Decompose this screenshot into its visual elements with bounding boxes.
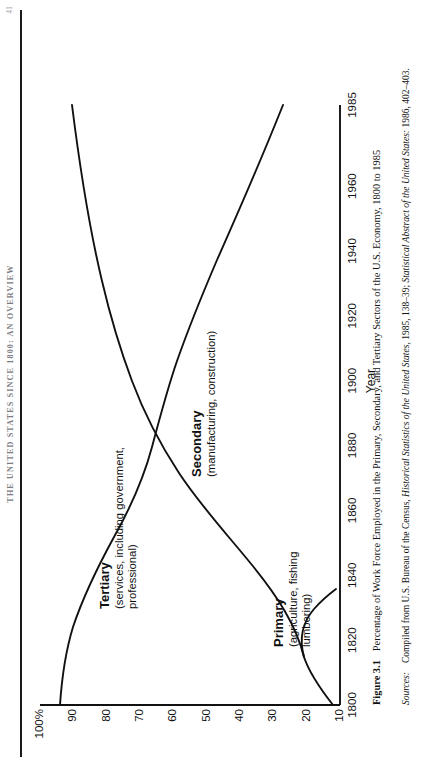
y-tick-10: 10 (333, 709, 345, 745)
y-tick-40: 40 (233, 709, 245, 745)
annotation-secondary-sub: (manufacturing, construction) (205, 331, 218, 477)
x-tick-1960: 1960 (346, 173, 358, 199)
annotation-primary-name: Primary (272, 552, 287, 647)
annotation-secondary: Secondary (manufacturing, construction) (190, 331, 218, 477)
y-tick-50: 50 (200, 709, 212, 745)
annotation-secondary-name: Secondary (190, 331, 205, 477)
y-tick-30: 30 (266, 709, 278, 745)
x-tick-1860: 1860 (346, 498, 358, 524)
figure-number: Figure 3.1 (370, 660, 383, 705)
y-tick-80: 80 (100, 709, 112, 745)
figure-caption-text: Percentage of Work Force Employed in the… (370, 45, 383, 651)
annotation-tertiary-name: Tertiary (98, 447, 113, 609)
x-tick-1985: 1985 (346, 92, 358, 118)
sources-label: Sources: (400, 672, 412, 705)
sources-italic-2: Statistical Abstract of the United State… (401, 130, 411, 283)
y-tick-90: 90 (66, 709, 78, 745)
chart-plot-area: 100% 90 80 70 60 50 40 30 20 10 1800 182… (40, 105, 340, 705)
page-folio: 41 (5, 6, 14, 14)
figure-caption: Figure 3.1 Percentage of Work Force Empl… (370, 45, 383, 705)
x-tick-1940: 1940 (346, 238, 358, 264)
y-tick-70: 70 (133, 709, 145, 745)
book-page: THE UNITED STATES SINCE 1800: AN OVERVIE… (0, 0, 442, 767)
sources-part-2: 1985, 138–39; (401, 283, 411, 343)
rotated-page-wrapper: THE UNITED STATES SINCE 1800: AN OVERVIE… (0, 0, 442, 767)
sources-text: Compiled from U.S. Bureau of the Census,… (400, 45, 412, 663)
annotation-tertiary: Tertiary (services, including government… (98, 447, 140, 609)
x-tick-1880: 1880 (346, 433, 358, 459)
curve-secondary-tertiary-boundary (60, 105, 283, 705)
x-tick-1920: 1920 (346, 303, 358, 329)
sources-italic-1: Historical Statistics of the United Stat… (401, 342, 411, 497)
annotation-primary-sub: (agriculture, fishing lumbering) (287, 552, 314, 647)
sources-part-3: 1986, 402–403. (401, 68, 411, 130)
y-tick-20: 20 (300, 709, 312, 745)
annotation-primary: Primary (agriculture, fishing lumbering) (272, 552, 314, 647)
sources-part-1: Compiled from U.S. Bureau of the Census, (401, 497, 411, 663)
y-tick-100: 100% (33, 709, 45, 749)
x-tick-1840: 1840 (346, 563, 358, 589)
running-head: THE UNITED STATES SINCE 1800: AN OVERVIE… (6, 0, 15, 767)
x-tick-1900: 1900 (346, 368, 358, 394)
header-rule (20, 10, 22, 757)
y-tick-60: 60 (166, 709, 178, 745)
x-tick-1800: 1800 (346, 692, 358, 718)
x-tick-1820: 1820 (346, 627, 358, 653)
annotation-tertiary-sub: (services, including government, profess… (113, 447, 140, 609)
figure-sources: Sources: Compiled from U.S. Bureau of th… (400, 45, 412, 705)
